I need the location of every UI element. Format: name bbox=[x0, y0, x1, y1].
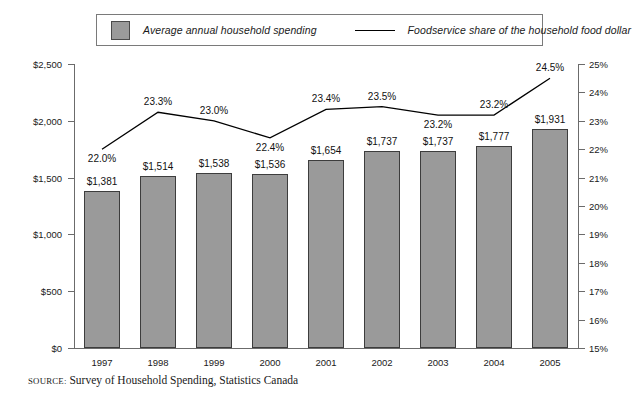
legend-label-line: Foodservice share of the household food … bbox=[408, 24, 632, 36]
source-text: Survey of Household Spending, Statistics… bbox=[69, 374, 298, 386]
right-axis-tick-mark bbox=[579, 234, 585, 235]
bar-1999 bbox=[196, 173, 232, 348]
right-axis-tick-label: 17% bbox=[589, 286, 608, 297]
bar-2000 bbox=[252, 174, 288, 348]
bar-1998 bbox=[140, 176, 176, 348]
right-axis-tick-mark bbox=[579, 149, 585, 150]
line-value-label-1998: 23.3% bbox=[144, 96, 172, 107]
right-axis-tick-label: 24% bbox=[589, 87, 608, 98]
right-axis-tick-label: 22% bbox=[589, 144, 608, 155]
gray-square-swatch-icon bbox=[111, 21, 130, 40]
right-axis-tick-label: 19% bbox=[589, 229, 608, 240]
line-value-label-2001: 23.4% bbox=[312, 93, 340, 104]
source-kicker: SOURCE: bbox=[28, 376, 67, 386]
right-axis-tick-label: 15% bbox=[589, 343, 608, 354]
right-axis-tick-mark bbox=[579, 320, 585, 321]
right-axis-tick-mark bbox=[579, 206, 585, 207]
right-axis-tick-mark bbox=[579, 348, 585, 349]
x-axis-label-2003: 2003 bbox=[427, 357, 448, 368]
bottom-axis-line bbox=[74, 348, 579, 349]
left-axis-tick-label: $2,000 bbox=[33, 115, 62, 126]
right-axis-tick-mark bbox=[579, 178, 585, 179]
right-axis-tick-mark bbox=[579, 64, 585, 65]
left-axis-tick-label: $2,500 bbox=[33, 59, 62, 70]
bar-2004 bbox=[476, 146, 512, 348]
line-value-label-2005: 24.5% bbox=[536, 62, 564, 73]
horizontal-line-swatch-icon bbox=[355, 30, 395, 31]
bar-value-label-2004: $1,777 bbox=[479, 131, 510, 142]
line-value-label-2000: 22.4% bbox=[256, 142, 284, 153]
right-axis-tick-label: 16% bbox=[589, 314, 608, 325]
bar-value-label-1999: $1,538 bbox=[199, 158, 230, 169]
bar-value-label-1997: $1,381 bbox=[87, 176, 118, 187]
legend-label-bars: Average annual household spending bbox=[143, 24, 317, 36]
line-value-label-2004: 23.2% bbox=[480, 99, 508, 110]
right-axis-tick-label: 25% bbox=[589, 59, 608, 70]
x-axis-label-1997: 1997 bbox=[91, 357, 112, 368]
x-axis-label-2001: 2001 bbox=[315, 357, 336, 368]
right-axis-tick-mark bbox=[579, 92, 585, 93]
bar-2001 bbox=[308, 160, 344, 348]
right-axis-tick-mark bbox=[579, 121, 585, 122]
left-axis-tick-label: $0 bbox=[51, 343, 62, 354]
legend-entry-bars: Average annual household spending bbox=[97, 15, 317, 45]
x-axis-label-1998: 1998 bbox=[147, 357, 168, 368]
left-axis-tick-label: $1,000 bbox=[33, 229, 62, 240]
x-axis-label-2004: 2004 bbox=[483, 357, 504, 368]
line-value-label-1997: 22.0% bbox=[88, 153, 116, 164]
bar-2003 bbox=[420, 151, 456, 348]
line-value-label-2003: 23.2% bbox=[424, 119, 452, 130]
left-axis-tick-label: $500 bbox=[41, 286, 62, 297]
bar-2005 bbox=[532, 129, 568, 348]
legend-entry-line: Foodservice share of the household food … bbox=[317, 15, 632, 45]
right-axis-tick-label: 18% bbox=[589, 257, 608, 268]
x-axis-label-2005: 2005 bbox=[539, 357, 560, 368]
bar-value-label-2005: $1,931 bbox=[535, 114, 566, 125]
line-value-label-1999: 23.0% bbox=[200, 105, 228, 116]
x-axis-label-2002: 2002 bbox=[371, 357, 392, 368]
right-axis-tick-label: 20% bbox=[589, 201, 608, 212]
bar-value-label-2002: $1,737 bbox=[367, 136, 398, 147]
bar-1997 bbox=[84, 191, 120, 348]
right-axis-tick-mark bbox=[579, 291, 585, 292]
bar-value-label-2001: $1,654 bbox=[311, 145, 342, 156]
x-axis-label-2000: 2000 bbox=[259, 357, 280, 368]
line-value-label-2002: 23.5% bbox=[368, 91, 396, 102]
chart-legend: Average annual household spending Foodse… bbox=[96, 14, 543, 46]
x-axis-label-1999: 1999 bbox=[203, 357, 224, 368]
bar-2002 bbox=[364, 151, 400, 348]
bar-value-label-1998: $1,514 bbox=[143, 161, 174, 172]
right-axis-tick-mark bbox=[579, 263, 585, 264]
right-axis-tick-label: 23% bbox=[589, 115, 608, 126]
bar-value-label-2003: $1,737 bbox=[423, 136, 454, 147]
right-axis-tick-label: 21% bbox=[589, 172, 608, 183]
left-axis-tick-label: $1,500 bbox=[33, 172, 62, 183]
left-axis-tick-mark bbox=[68, 348, 74, 349]
source-note: SOURCE: Survey of Household Spending, St… bbox=[28, 374, 298, 386]
bar-value-label-2000: $1,536 bbox=[255, 159, 286, 170]
